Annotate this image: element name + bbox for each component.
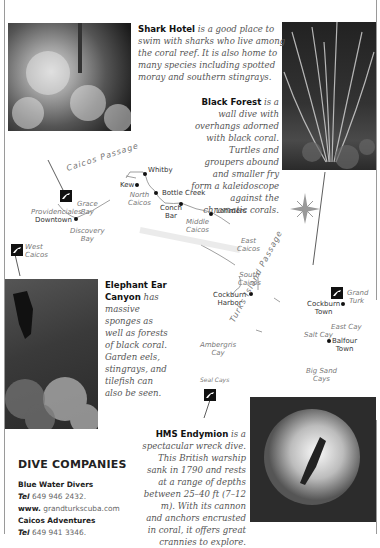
company-name: Caicos Adventures bbox=[18, 515, 127, 527]
label-grace-bay: GraceBay bbox=[77, 200, 98, 216]
dive-site-icon-seal-cays[interactable] bbox=[204, 389, 216, 401]
label-north-caicos: NorthCaicos bbox=[128, 191, 151, 207]
label-west-caicos: WestCaicos bbox=[25, 243, 48, 259]
dive-companies-section: DIVE COMPANIES Blue Water Divers Tel 649… bbox=[18, 458, 127, 539]
dive-site-icon-shark-hotel[interactable] bbox=[60, 190, 72, 202]
bottle-creek-dot bbox=[154, 191, 158, 195]
label-balfour-town: BalfourTown bbox=[332, 337, 357, 353]
label-downtown: Downtown bbox=[35, 216, 72, 224]
dive-companies-heading: DIVE COMPANIES bbox=[18, 458, 127, 471]
label-bottle-creek: Bottle Creek bbox=[162, 189, 205, 197]
kew-dot bbox=[135, 183, 139, 187]
label-ambergris-cay: AmbergrisCay bbox=[200, 341, 236, 357]
label-middle-caicos: MiddleCaicos bbox=[186, 218, 209, 234]
label-providenciales: Providenciales bbox=[31, 208, 82, 216]
label-east-caicos: EastCaicos bbox=[237, 237, 260, 253]
compass-rose bbox=[290, 193, 320, 224]
label-salt-cay: Salt Cay bbox=[304, 331, 333, 339]
label-lorimers: Lorimers bbox=[216, 207, 247, 215]
label-kew: Kew bbox=[120, 181, 134, 189]
label-south-caicos: SouthCaicos bbox=[238, 271, 261, 287]
lorimers-dot bbox=[209, 212, 213, 216]
dive-site-icon-west-caicos[interactable] bbox=[11, 244, 23, 256]
label-grand-turk: Grand Turk bbox=[347, 289, 368, 305]
label-cockburn-harbor: CockburnHarbor bbox=[213, 291, 246, 307]
label-conch-bar: ConchBar bbox=[160, 204, 182, 220]
label-discovery-bay: DiscoveryBay bbox=[70, 227, 105, 243]
balfour-town-dot bbox=[327, 339, 331, 343]
company-tel: Tel 649 941 3346. bbox=[18, 527, 127, 539]
company-name: Blue Water Divers bbox=[18, 479, 127, 491]
whitby-dot bbox=[143, 172, 147, 176]
label-east-cay: East Cay bbox=[331, 323, 362, 331]
label-cockburn-town: CockburnTown bbox=[307, 300, 340, 316]
label-big-sand-cays: Big SandCays bbox=[306, 367, 337, 383]
dive-site-icon-grand-turk[interactable] bbox=[331, 287, 343, 299]
cockburn-town-dot bbox=[341, 302, 345, 306]
label-seal-cays: Seal Cays bbox=[200, 376, 229, 384]
label-whitby: Whitby bbox=[148, 166, 173, 174]
company-website[interactable]: www. grandturkscuba.com bbox=[18, 503, 127, 515]
downtown-dot bbox=[74, 217, 78, 221]
company-tel: Tel 649 946 2432. bbox=[18, 491, 127, 503]
